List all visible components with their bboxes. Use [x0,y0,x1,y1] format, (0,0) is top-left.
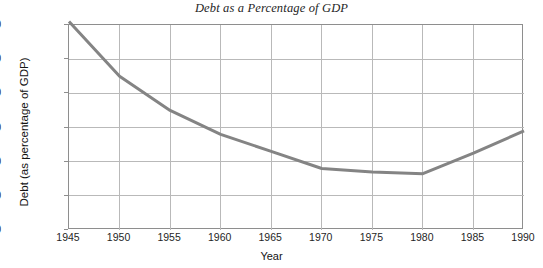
chart-figure: Debt as a Percentage of GDP Debt (as per… [0,0,543,268]
x-tick-label: 1990 [493,231,543,243]
plot-area [68,24,523,229]
y-tick-label: 100 [0,52,1,64]
y-tick-label: 60 [0,121,1,133]
x-axis: 1945195019551960196519701975198019851990 [0,231,543,251]
y-axis: Debt (as percentage of GDP) 020406080100… [0,0,68,268]
y-axis-title: Debt (as percentage of GDP) [18,32,30,232]
y-tick-mark [64,229,68,230]
y-tick-label: 20 [0,189,1,201]
y-tick-label: % 120 [0,18,1,30]
x-axis-title: Year [0,250,543,262]
y-tick-label: 80 [0,86,1,98]
y-tick-label: 40 [0,155,1,167]
debt-series-line [69,25,524,230]
chart-title: Debt as a Percentage of GDP [0,1,543,16]
